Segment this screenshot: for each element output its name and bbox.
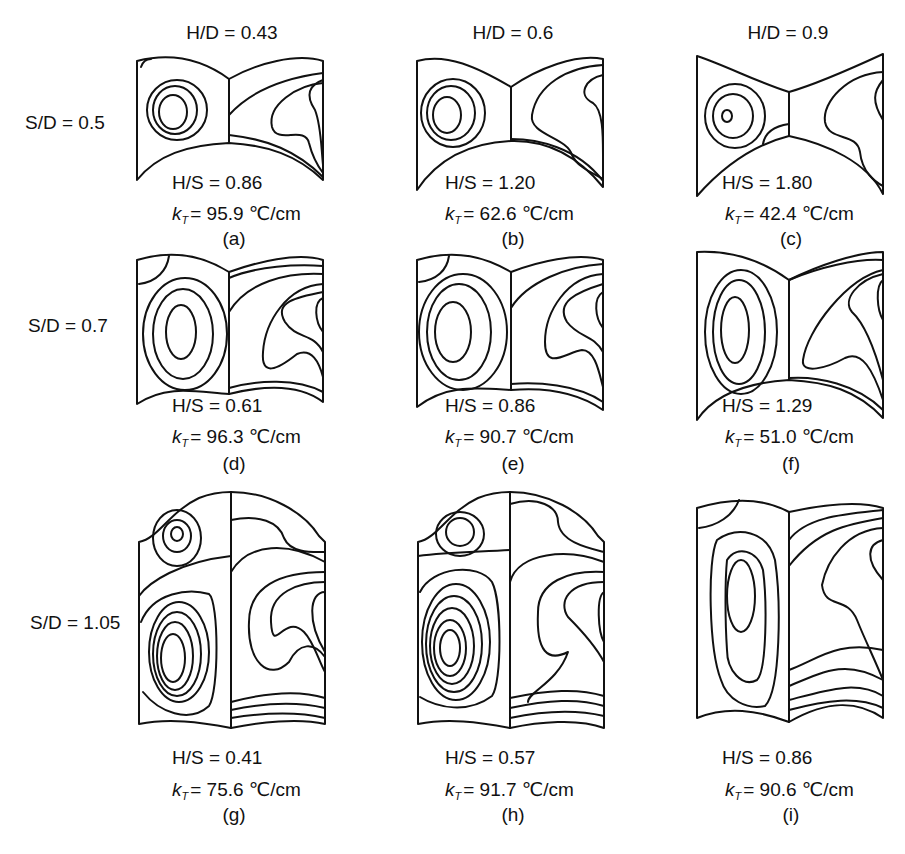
kt-label-c: kT= 42.4 ℃/cm [725,202,854,226]
kt-value-c: = 42.4 ℃/cm [743,203,854,224]
panel-a [137,55,325,185]
contour-plot-g [139,492,325,732]
kt-label-g: kT= 75.6 ℃/cm [172,778,301,802]
panel-label-a: (a) [214,228,254,250]
contour-plot-d [137,252,325,402]
panel-label-c: (c) [771,228,811,250]
column-header-hd-09: H/D = 0.9 [708,22,868,44]
row-header-sd-07: S/D = 0.7 [28,315,108,337]
panel-d [137,252,325,402]
kt-label-e: kT= 90.7 ℃/cm [445,425,574,449]
hs-label-g: H/S = 0.41 [172,747,262,769]
row-header-sd-05: S/D = 0.5 [25,112,105,134]
kt-value-b: = 62.6 ℃/cm [463,203,574,224]
kt-value-h: = 91.7 ℃/cm [463,779,574,800]
column-header-hd-06: H/D = 0.6 [433,22,593,44]
hs-label-f: H/S = 1.29 [722,395,812,417]
contour-plot-i [697,500,885,722]
panel-b [417,55,605,185]
kt-value-e: = 90.7 ℃/cm [463,426,574,447]
kt-label-f: kT= 51.0 ℃/cm [725,425,854,449]
panel-label-h: (h) [493,804,533,826]
kt-value-g: = 75.6 ℃/cm [190,779,301,800]
panel-label-e: (e) [493,453,533,475]
hs-label-c: H/S = 1.80 [722,172,812,194]
kt-value-a: = 95.9 ℃/cm [190,203,301,224]
panel-label-g: (g) [214,804,254,826]
panel-label-f: (f) [771,453,811,475]
column-header-hd-043: H/D = 0.43 [152,22,312,44]
contour-plot-b [417,55,605,185]
contour-plot-a [137,55,325,185]
hs-label-b: H/S = 1.20 [445,172,535,194]
hs-label-d: H/S = 0.61 [172,395,262,417]
hs-label-a: H/S = 0.86 [172,172,262,194]
hs-label-h: H/S = 0.57 [445,747,535,769]
kt-label-b: kT= 62.6 ℃/cm [445,202,574,226]
panel-e [417,252,605,407]
kt-label-h: kT= 91.7 ℃/cm [445,778,574,802]
kt-value-d: = 96.3 ℃/cm [190,426,301,447]
kt-value-f: = 51.0 ℃/cm [743,426,854,447]
contour-plot-e [417,252,605,407]
panel-i [697,500,885,722]
hs-label-i: H/S = 0.86 [722,747,812,769]
panel-label-b: (b) [493,228,533,250]
kt-label-i: kT= 90.6 ℃/cm [725,778,854,802]
row-header-sd-105: S/D = 1.05 [30,612,120,634]
panel-label-i: (i) [771,804,811,826]
panel-g [139,492,325,732]
panel-h [418,492,606,734]
kt-label-a: kT= 95.9 ℃/cm [172,202,301,226]
panel-label-d: (d) [214,453,254,475]
contour-plot-h [418,492,606,734]
kt-label-d: kT= 96.3 ℃/cm [172,425,301,449]
hs-label-e: H/S = 0.86 [445,395,535,417]
kt-value-i: = 90.6 ℃/cm [743,779,854,800]
